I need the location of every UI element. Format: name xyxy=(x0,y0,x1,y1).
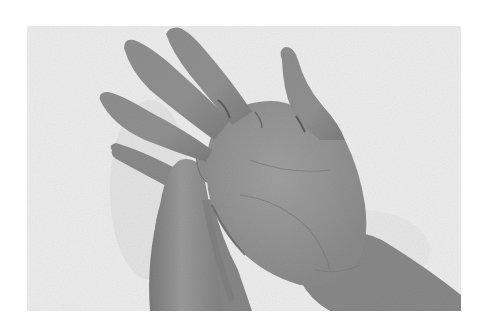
hand-illustration xyxy=(0,0,487,331)
hand-photo: Grayscale photograph of two hands on a w… xyxy=(0,0,487,331)
